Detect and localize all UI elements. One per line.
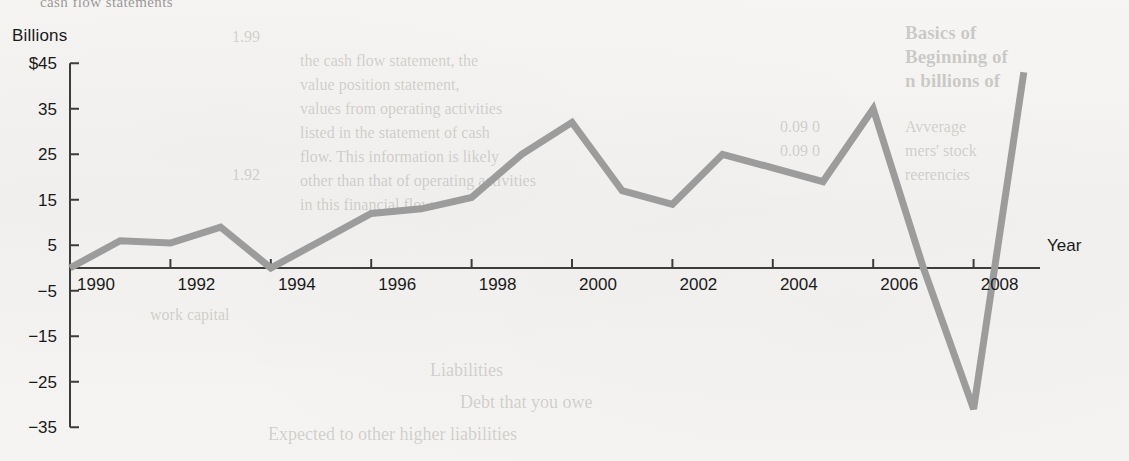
- line-chart: Billions Year $453525155−5−15−25−35 1990…: [0, 0, 1129, 461]
- y-tick-label: −5: [0, 283, 57, 300]
- y-tick-label: 15: [0, 192, 57, 209]
- y-tick-label: −15: [0, 328, 57, 345]
- x-tick-label: 2002: [679, 276, 717, 293]
- x-tick-label: 1996: [378, 276, 416, 293]
- x-tick-label: 1994: [278, 276, 316, 293]
- x-axis-title: Year: [1047, 236, 1081, 256]
- y-tick-label: −35: [0, 419, 57, 436]
- chart-canvas: [0, 0, 1129, 461]
- y-axis-title: Billions: [12, 26, 67, 46]
- series-layer: [70, 72, 1024, 409]
- x-tick-label: 1990: [77, 276, 115, 293]
- y-tick-label: $45: [0, 55, 57, 72]
- x-tick-label: 1992: [177, 276, 215, 293]
- y-tick-label: 25: [0, 146, 57, 163]
- y-tick-label: 5: [0, 237, 57, 254]
- x-tick-label: 2000: [579, 276, 617, 293]
- data-line: [70, 72, 1024, 409]
- x-tick-label: 2008: [981, 276, 1019, 293]
- y-tick-label: 35: [0, 101, 57, 118]
- x-tick-label: 2006: [880, 276, 918, 293]
- chart-page: Basics of Beginning of n billions of Avv…: [0, 0, 1129, 461]
- y-tick-label: −25: [0, 374, 57, 391]
- axis-layer: [70, 63, 1040, 427]
- x-tick-label: 2004: [780, 276, 818, 293]
- x-tick-label: 1998: [479, 276, 517, 293]
